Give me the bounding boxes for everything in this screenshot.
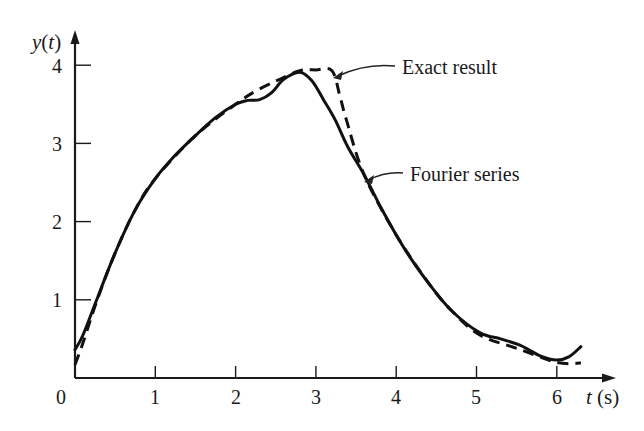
x-axis-var: t — [586, 385, 592, 409]
annotation-exact-result: Exact result — [402, 57, 497, 77]
origin-label: 0 — [51, 387, 71, 407]
y-tick-label-1: 1 — [42, 290, 62, 310]
annotation-arrows — [333, 65, 403, 184]
y-axis-paren-close: ) — [54, 30, 61, 54]
fourier-series-arrow — [369, 173, 403, 180]
y-axis-var: y — [32, 30, 41, 54]
x-axis-label: t (s) — [586, 387, 619, 408]
y-tick-label-2: 2 — [42, 212, 62, 232]
x-tick-label-4: 4 — [386, 387, 406, 407]
annotation-fourier-series: Fourier series — [410, 164, 519, 184]
x-axis-unit: (s) — [597, 385, 619, 409]
x-tick-label-6: 6 — [547, 387, 567, 407]
chart-canvas — [0, 0, 644, 431]
exact-result-curve — [75, 68, 581, 364]
y-axis-label: y(t) — [32, 32, 61, 53]
axes — [75, 38, 608, 378]
y-ticks — [75, 65, 91, 300]
exact-result-arrow — [338, 65, 395, 76]
y-axis-arrow-icon — [71, 30, 80, 44]
x-tick-label-3: 3 — [306, 387, 326, 407]
x-tick-label-5: 5 — [466, 387, 486, 407]
fourier-series-curve — [75, 72, 581, 360]
y-tick-label-4: 4 — [42, 56, 62, 76]
x-tick-label-2: 2 — [226, 387, 246, 407]
y-tick-label-3: 3 — [42, 134, 62, 154]
x-tick-label-1: 1 — [145, 387, 165, 407]
x-axis-arrow-icon — [602, 374, 616, 383]
x-ticks — [155, 366, 557, 378]
